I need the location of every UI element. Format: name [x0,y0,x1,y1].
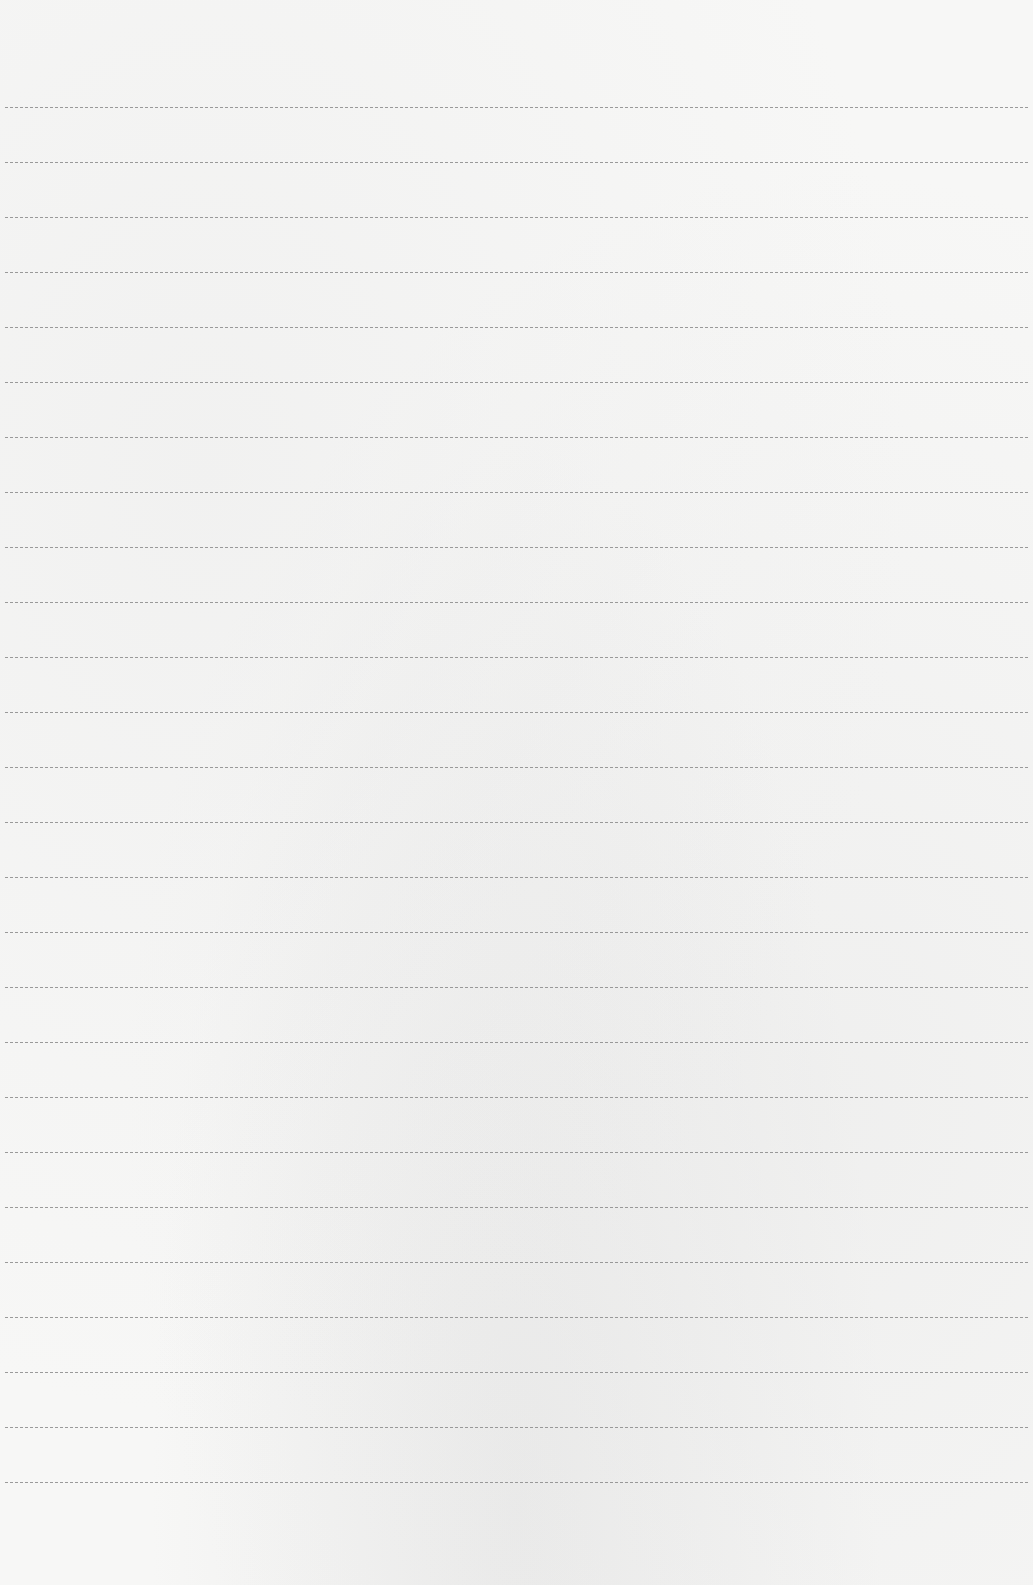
ruled-line [5,272,1028,273]
ruled-line [5,382,1028,383]
ruled-line [5,932,1028,933]
ruled-line [5,162,1028,163]
ruled-line [5,712,1028,713]
ruled-line [5,1097,1028,1098]
ruled-line [5,437,1028,438]
ruled-line [5,547,1028,548]
ruled-line [5,1042,1028,1043]
ruled-line [5,107,1028,108]
ruled-line [5,1482,1028,1483]
ruled-line [5,987,1028,988]
lined-paper-sheet [0,0,1033,1585]
ruled-line [5,1317,1028,1318]
ruled-line [5,492,1028,493]
ruled-line [5,657,1028,658]
ruled-line [5,1152,1028,1153]
ruled-line [5,217,1028,218]
ruled-lines [0,0,1033,1585]
ruled-line [5,1427,1028,1428]
ruled-line [5,1207,1028,1208]
ruled-line [5,1372,1028,1373]
ruled-line [5,602,1028,603]
ruled-line [5,767,1028,768]
ruled-line [5,822,1028,823]
ruled-line [5,327,1028,328]
ruled-line [5,1262,1028,1263]
ruled-line [5,877,1028,878]
